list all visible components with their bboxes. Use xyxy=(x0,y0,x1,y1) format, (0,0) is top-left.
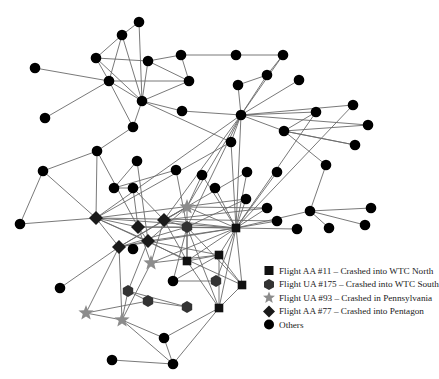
graph-edge xyxy=(142,101,231,142)
square-icon xyxy=(262,264,276,277)
graph-edge xyxy=(236,228,297,229)
circle-node xyxy=(30,63,41,74)
circle-node xyxy=(15,219,26,230)
graph-edge xyxy=(122,320,164,338)
hexagon-node xyxy=(123,285,133,297)
legend-item-others: Others xyxy=(262,318,432,332)
graph-edge xyxy=(96,151,97,218)
legend-item-ua93: Flight UA #93 – Crashed in Pennsylvania xyxy=(262,291,432,305)
circle-node xyxy=(128,122,139,133)
graph-edge xyxy=(219,255,242,285)
circle-node xyxy=(134,17,145,28)
graph-edge xyxy=(241,80,299,115)
circle-icon xyxy=(262,318,276,331)
circle-node xyxy=(168,359,179,370)
circle-node xyxy=(197,170,208,181)
circle-node xyxy=(128,183,139,194)
circle-node xyxy=(242,167,253,178)
graph-edge xyxy=(182,111,241,115)
circle-node xyxy=(177,106,188,117)
circle-node xyxy=(324,223,335,234)
graph-edge xyxy=(35,68,109,81)
graph-edge xyxy=(142,81,189,101)
graph-edge xyxy=(96,142,231,218)
graph-edge xyxy=(236,228,242,285)
circle-node xyxy=(272,167,283,178)
graph-edge xyxy=(20,171,43,224)
star-node xyxy=(78,305,93,319)
legend-item-aa77: Flight AA #77 – Crashed into Pentagon xyxy=(262,305,432,319)
circle-node xyxy=(305,206,316,217)
graph-edge xyxy=(241,105,353,115)
graph-edge xyxy=(128,291,187,307)
graph-edge xyxy=(241,112,316,115)
legend-label: Flight AA #11 – Crashed into WTC North xyxy=(279,266,433,276)
diamond-node xyxy=(131,220,145,234)
circle-node xyxy=(107,355,118,366)
graph-edge xyxy=(109,35,122,81)
graph-edge xyxy=(284,125,368,131)
circle-node xyxy=(366,203,377,214)
diamond-node xyxy=(112,240,126,254)
square-node xyxy=(215,251,224,260)
graph-edge xyxy=(45,81,109,118)
circle-node xyxy=(143,56,154,67)
graph-edge xyxy=(60,247,119,288)
circle-node xyxy=(176,50,187,61)
diamond-node xyxy=(141,234,155,248)
graph-edge xyxy=(119,247,122,320)
circle-node xyxy=(91,53,102,64)
graph-edge xyxy=(148,241,219,255)
graph-edge xyxy=(112,360,173,364)
graph-edge xyxy=(241,115,284,131)
graph-edge xyxy=(20,218,96,224)
square-node xyxy=(238,281,247,290)
circle-node xyxy=(292,224,303,235)
legend-label: Flight UA #93 – Crashed in Pennsylvania xyxy=(279,293,432,303)
graph-edge xyxy=(148,61,189,81)
circle-node xyxy=(226,137,237,148)
hexagon-node xyxy=(211,275,221,287)
graph-edge xyxy=(231,142,236,228)
circle-node xyxy=(311,107,322,118)
graph-edge xyxy=(114,170,176,188)
circle-node xyxy=(137,96,148,107)
star-icon xyxy=(262,291,276,304)
graph-edge xyxy=(310,165,326,211)
circle-node xyxy=(363,120,374,131)
graph-edge xyxy=(164,308,219,338)
graph-edge xyxy=(310,208,371,211)
circle-node xyxy=(55,283,66,294)
circle-node xyxy=(171,165,182,176)
circle-node xyxy=(109,183,120,194)
circle-node xyxy=(278,50,289,61)
circle-node xyxy=(38,166,49,177)
square-node xyxy=(183,257,192,266)
legend-label: Flight AA #77 – Crashed into Pentagon xyxy=(279,306,424,316)
circle-node xyxy=(360,220,371,231)
circle-node xyxy=(348,100,359,111)
square-node xyxy=(232,224,241,233)
circle-node xyxy=(40,113,51,124)
circle-node xyxy=(117,30,128,41)
circle-node xyxy=(132,156,143,167)
circle-node xyxy=(321,160,332,171)
circle-node xyxy=(236,110,247,121)
hexagon-node xyxy=(182,301,192,313)
graph-edge xyxy=(86,247,119,313)
graph-edge xyxy=(241,115,368,125)
circle-node xyxy=(104,76,115,87)
legend: Flight AA #11 – Crashed into WTC North F… xyxy=(262,264,432,332)
star-node xyxy=(143,255,158,269)
circle-node xyxy=(262,70,273,81)
circle-node xyxy=(241,194,252,205)
graph-edge xyxy=(139,22,142,101)
graph-edge xyxy=(43,151,97,171)
circle-node xyxy=(184,76,195,87)
graph-edge xyxy=(284,131,326,165)
legend-label: Others xyxy=(279,320,304,330)
graph-edge xyxy=(219,228,236,308)
circle-node xyxy=(128,244,139,255)
circle-node xyxy=(233,80,244,91)
circle-node xyxy=(92,146,103,157)
